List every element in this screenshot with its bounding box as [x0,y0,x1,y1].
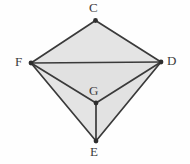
vertex-label-c: C [89,1,98,14]
vertex-dot-f [29,61,34,66]
geometry-figure: CFDGE [0,0,190,164]
face-CFD [31,21,161,64]
vertex-label-e: E [90,145,98,158]
edge-FD [31,62,161,63]
vertex-dot-d [159,60,164,65]
figure-canvas [0,0,190,164]
vertex-dot-c [93,18,98,23]
vertex-label-d: D [167,54,176,67]
vertex-dot-g [94,101,99,106]
vertex-label-g: G [89,84,98,97]
vertex-label-f: F [15,55,22,68]
vertex-dot-e [94,139,99,144]
